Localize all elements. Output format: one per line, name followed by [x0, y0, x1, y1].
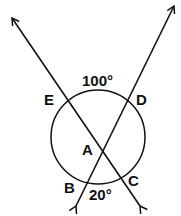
circle: [51, 90, 145, 184]
geometry-diagram: 100° E D A B C 20°: [0, 0, 181, 216]
label-E: E: [44, 91, 54, 108]
label-20-degrees: 20°: [89, 186, 112, 203]
label-A: A: [82, 141, 93, 158]
label-B: B: [64, 179, 75, 196]
label-D: D: [136, 91, 147, 108]
label-C: C: [128, 172, 139, 189]
label-100-degrees: 100°: [82, 72, 113, 89]
